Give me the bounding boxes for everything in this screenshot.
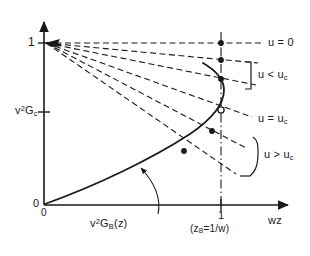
u-greater-uc-sub: c xyxy=(290,153,294,162)
brace-u-less-uc xyxy=(245,62,251,89)
zb-rest: =1/w) xyxy=(203,223,229,234)
u-less-uc-text: u < u xyxy=(258,68,284,80)
v2gc-G: G xyxy=(25,104,34,116)
marker-u-greater-uc-upper xyxy=(209,128,215,134)
curve-G: G xyxy=(100,217,109,229)
x-tick-label-one: 1 xyxy=(218,210,224,221)
annotation-u-less-uc: u < uc xyxy=(258,69,288,81)
y-tick-label-v2gc: v2Gc xyxy=(15,105,38,117)
annotation-u-greater-uc: u > uc xyxy=(264,149,294,161)
dashed-line-u-less-uc-upper xyxy=(46,43,258,63)
v2gc-sub: c xyxy=(34,109,38,118)
dashed-line-u-less-uc-lower xyxy=(46,43,256,85)
curve-arg: (z) xyxy=(114,217,127,229)
u-equals-uc-text: u = u xyxy=(258,112,284,124)
marker-u-less-uc-lower xyxy=(218,76,224,82)
u-less-uc-sub: c xyxy=(284,73,288,82)
curve-label-leader xyxy=(141,168,159,214)
brace-u-greater-uc xyxy=(250,137,258,176)
curve-label-v2gb: v2GB(z) xyxy=(90,218,127,230)
annotation-u-equals-uc: u = uc xyxy=(258,113,288,125)
marker-u-equals-uc xyxy=(218,107,224,113)
annotation-u-equals-zero: u = 0 xyxy=(268,37,294,48)
x-axis-label: wz xyxy=(268,215,282,226)
y-tick-label-one: 1 xyxy=(28,36,35,48)
x-tick-sublabel: (zB=1/w) xyxy=(190,224,229,235)
u-greater-uc-text: u > u xyxy=(264,148,290,160)
figure-root: 1 v2Gc 0 0 1 (zB=1/w) wz v2GB(z) u = 0 u… xyxy=(0,0,310,256)
marker-u-greater-uc-lower xyxy=(181,148,187,154)
origin-label-below: 0 xyxy=(41,208,47,218)
origin-label-left: 0 xyxy=(33,198,39,209)
dashed-line-u-greater-uc-lower xyxy=(46,43,236,174)
marker-u-less-uc-upper xyxy=(218,57,224,63)
u-equals-uc-sub: c xyxy=(284,117,288,126)
zb-open: (z xyxy=(190,223,199,234)
dashed-line-u-greater-uc-upper xyxy=(46,43,246,148)
curve-v2-gb xyxy=(45,63,224,204)
marker-u-equals-0 xyxy=(218,40,224,46)
